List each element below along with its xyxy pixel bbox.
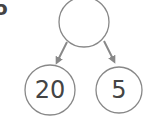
- right-arrow-icon: [104, 41, 114, 61]
- right-child-label: 5: [111, 76, 126, 104]
- tree-svg: 20 5: [0, 0, 144, 118]
- left-child-label: 20: [35, 76, 66, 104]
- left-arrow-icon: [57, 42, 67, 62]
- tree-diagram: o 20 5: [0, 0, 144, 118]
- right-child-node: 5: [96, 67, 142, 113]
- root-node: [59, 0, 109, 47]
- left-child-node: 20: [25, 65, 75, 115]
